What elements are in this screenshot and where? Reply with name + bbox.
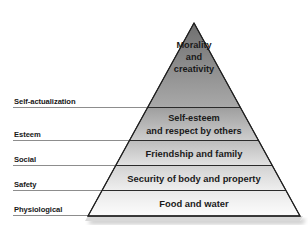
side-label-safety: Safety	[14, 180, 37, 189]
tier-text-social-line1: Friendship and family	[146, 148, 244, 159]
side-label-self-actualization: Self-actualization	[14, 97, 76, 106]
pyramid-shadow	[85, 216, 303, 221]
side-label-esteem: Esteem	[14, 130, 41, 139]
pyramid-diagram-canvas: Self-actualization Esteem Social Safety …	[0, 0, 308, 233]
tier-text-safety-line1: Security of body and property	[127, 173, 261, 184]
shadow-strip	[85, 216, 303, 221]
tier-text-self-actualization-line1: Morality	[176, 40, 212, 50]
tier-text-esteem-line1: Self-esteem	[168, 113, 220, 123]
tier-text-self-actualization-line3: creativity	[174, 64, 215, 74]
maslow-pyramid-figure: Self-actualization Esteem Social Safety …	[0, 0, 308, 233]
side-label-physiological: Physiological	[14, 205, 62, 214]
tier-text-self-actualization-line2: and	[186, 52, 202, 62]
tier-text-physiological-line1: Food and water	[159, 198, 229, 209]
tier-text-esteem-line2: and respect by others	[146, 126, 241, 136]
side-label-social: Social	[14, 155, 36, 164]
